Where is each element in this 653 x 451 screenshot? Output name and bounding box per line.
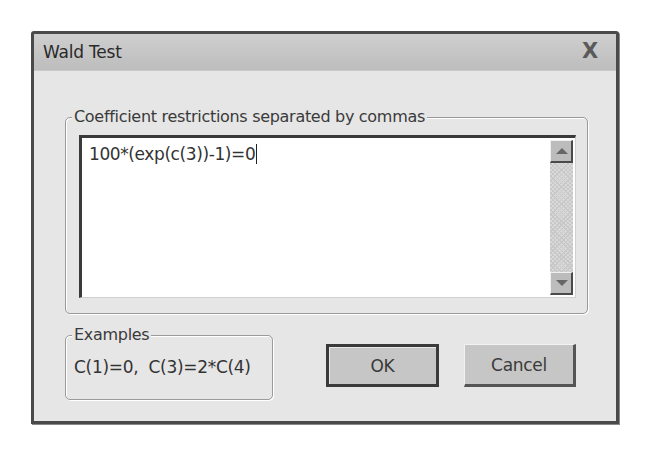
restrictions-groupbox: Coefficient restrictions separated by co… — [65, 117, 588, 314]
dialog-body: Coefficient restrictions separated by co… — [34, 71, 616, 421]
cancel-button[interactable]: Cancel — [464, 344, 576, 387]
examples-label: Examples — [72, 325, 151, 345]
restrictions-value-text: 100*(exp(c(3))-1)=0 — [89, 144, 255, 164]
dialog-title: Wald Test — [43, 42, 122, 62]
text-caret — [256, 144, 257, 164]
restrictions-label: Coefficient restrictions separated by co… — [72, 107, 427, 127]
wald-test-dialog: Wald Test X Coefficient restrictions sep… — [31, 31, 619, 424]
scroll-down-button[interactable] — [550, 272, 573, 295]
arrow-up-icon — [556, 148, 568, 154]
arrow-down-icon — [556, 280, 568, 286]
title-bar[interactable]: Wald Test X — [34, 34, 616, 71]
restrictions-input-value[interactable]: 100*(exp(c(3))-1)=0 — [89, 144, 257, 164]
scroll-up-button[interactable] — [550, 140, 573, 163]
vertical-scrollbar[interactable] — [550, 140, 573, 295]
examples-groupbox: Examples C(1)=0, C(3)=2*C(4) — [65, 335, 273, 400]
ok-button[interactable]: OK — [326, 344, 439, 387]
close-icon[interactable]: X — [578, 38, 602, 64]
examples-text: C(1)=0, C(3)=2*C(4) — [74, 357, 251, 377]
restrictions-input[interactable]: 100*(exp(c(3))-1)=0 — [79, 135, 576, 298]
